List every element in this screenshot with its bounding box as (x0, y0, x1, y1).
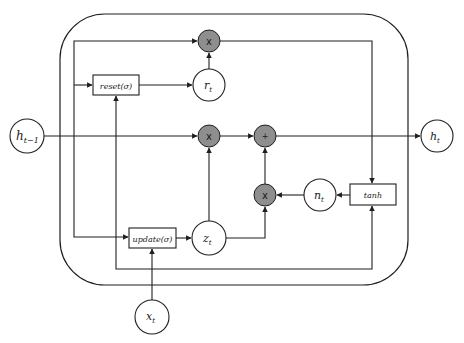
node-x-input: xt (135, 300, 169, 334)
gru-diagram: ht−1 ht xt reset(σ) update(σ) tanh rt zt… (0, 0, 464, 343)
node-h-prev: ht−1 (10, 119, 44, 153)
op-add: + (254, 125, 276, 147)
op-mul-reset: x (198, 30, 220, 52)
edge-z-to-mul-cand (226, 207, 265, 238)
edge-hprev-branch-update (74, 136, 128, 237)
svg-text:+: + (262, 132, 269, 141)
node-h-out: ht (421, 120, 453, 152)
svg-text:update(σ): update(σ) (133, 235, 173, 244)
node-z: zt (192, 221, 226, 255)
svg-text:tanh: tanh (364, 191, 382, 200)
svg-text:reset(σ): reset(σ) (100, 82, 132, 91)
node-n: nt (304, 179, 336, 211)
reset-gate: reset(σ) (93, 75, 139, 95)
cell-boundary (60, 14, 408, 285)
edge-mul-reset-to-tanh (220, 41, 372, 183)
svg-text:x: x (262, 190, 268, 201)
svg-text:x: x (206, 131, 212, 142)
tanh-gate: tanh (350, 184, 396, 205)
op-mul-candidate: x (254, 184, 276, 206)
update-gate: update(σ) (129, 228, 176, 248)
svg-text:x: x (206, 36, 212, 47)
node-r: rt (193, 69, 225, 101)
op-mul-update: x (198, 125, 220, 147)
